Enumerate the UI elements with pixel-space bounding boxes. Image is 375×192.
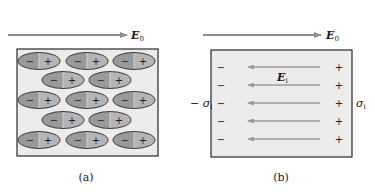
negative-charge-sign: −	[74, 95, 82, 106]
positive-charge-sign: +	[68, 75, 76, 86]
positive-surface-charge-label: σi	[356, 97, 367, 111]
dipole: −+	[42, 112, 84, 129]
surface-positive-sign: +	[335, 62, 343, 73]
positive-charge-sign: +	[139, 95, 147, 106]
dipole: −+	[18, 92, 60, 109]
panel-a: E0 −+−+−+−+−+−+−+−+−+−+−+−+−+ (a)	[8, 29, 158, 184]
dipole: −+	[42, 72, 84, 89]
dipole: −+	[66, 53, 108, 70]
positive-charge-sign: +	[44, 135, 52, 146]
negative-charge-sign: −	[121, 95, 129, 106]
negative-charge-sign: −	[121, 135, 129, 146]
caption-a: (a)	[78, 171, 93, 184]
positive-charge-sign: +	[115, 75, 123, 86]
surface-negative-sign: −	[217, 116, 225, 127]
external-field-label-b: E0	[325, 29, 339, 43]
dipole: −+	[66, 132, 108, 149]
surface-positive-sign: +	[335, 116, 343, 127]
dielectric-polarization-figure: E0 −+−+−+−+−+−+−+−+−+−+−+−+−+ (a) E0 −+−…	[0, 0, 375, 192]
positive-charge-sign: +	[92, 56, 100, 67]
surface-negative-sign: −	[217, 62, 225, 73]
dipole: −+	[18, 53, 60, 70]
negative-charge-sign: −	[97, 75, 105, 86]
positive-charge-sign: +	[44, 95, 52, 106]
negative-charge-sign: −	[74, 56, 82, 67]
positive-charge-sign: +	[68, 115, 76, 126]
positive-charge-sign: +	[139, 56, 147, 67]
negative-surface-charge-label: − σi	[190, 97, 213, 111]
surface-negative-sign: −	[217, 134, 225, 145]
dipole: −+	[89, 72, 131, 89]
dipole: −+	[113, 53, 155, 70]
positive-charge-sign: +	[115, 115, 123, 126]
external-field-label-a: E0	[130, 29, 144, 43]
surface-negative-sign: −	[217, 98, 225, 109]
negative-charge-sign: −	[74, 135, 82, 146]
negative-charge-sign: −	[121, 56, 129, 67]
dipole-group: −+−+−+−+−+−+−+−+−+−+−+−+−+	[18, 53, 155, 149]
dipole: −+	[18, 132, 60, 149]
positive-charge-sign: +	[92, 135, 100, 146]
caption-b: (b)	[273, 171, 289, 184]
dipole: −+	[66, 92, 108, 109]
dipole: −+	[89, 112, 131, 129]
positive-charge-sign: +	[92, 95, 100, 106]
surface-positive-sign: +	[335, 98, 343, 109]
positive-charge-sign: +	[44, 56, 52, 67]
panel-b: E0 −+−+−+−+−+ Ei − σi σi (b)	[190, 29, 367, 184]
negative-charge-sign: −	[50, 75, 58, 86]
negative-charge-sign: −	[26, 135, 34, 146]
surface-negative-sign: −	[217, 80, 225, 91]
dipole: −+	[113, 92, 155, 109]
negative-charge-sign: −	[26, 56, 34, 67]
negative-charge-sign: −	[97, 115, 105, 126]
positive-charge-sign: +	[139, 135, 147, 146]
dipole: −+	[113, 132, 155, 149]
negative-charge-sign: −	[50, 115, 58, 126]
negative-charge-sign: −	[26, 95, 34, 106]
surface-positive-sign: +	[335, 80, 343, 91]
surface-positive-sign: +	[335, 134, 343, 145]
